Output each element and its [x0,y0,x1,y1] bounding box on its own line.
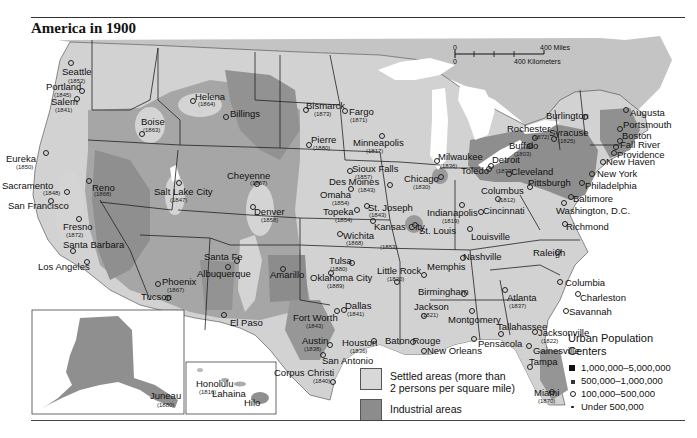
city-label-pensacola: Pensacola [478,339,522,349]
city-label-new-york: New York [597,169,637,179]
dot-icon [568,403,576,411]
city-year-fresno: (1872) [66,232,83,238]
city-year-houston: (1836) [350,348,367,354]
city-label-jackson: Jackson [414,302,449,312]
scale-miles-zero: 0 [453,44,457,51]
city-year-minneapolis: (1817) [366,148,383,154]
city-label-tulsa: Tulsa [329,256,352,266]
city-label-columbus: Columbus [481,186,524,196]
city-year-wichita: (1868) [346,240,363,246]
urban-legend-heading-2: Centers [568,345,671,358]
city-label-salt-lake-city: Salt Lake City [154,187,213,197]
city-marker-icon [221,112,229,120]
city-marker-icon [530,327,538,335]
open-circle-icon [568,390,576,398]
urban-legend-heading-1: Urban Population [568,332,671,345]
scale-miles-label: 400 Miles [540,44,570,51]
city-label-phoenix: Phoenix [162,277,196,287]
city-year-juneau: (1880) [157,402,174,408]
small-square-icon [568,377,576,385]
city-label-omaha: Omaha [320,190,351,200]
city-label-pittsburgh: Pittsburgh [528,178,571,188]
city-marker-icon [174,178,182,186]
legend-settled-line2: 2 persons per square mile) [390,382,515,394]
legend-settled: Settled areas (more than 2 persons per s… [360,368,515,394]
city-label-boise: Boise [141,117,165,127]
city-label-pierre: Pierre [311,135,336,145]
city-marker-icon [577,178,585,186]
city-label-hilo: Hilo [244,398,260,408]
city-label-toledo: Toledo [461,166,489,176]
city-marker-icon [621,105,629,113]
city-marker-icon [561,306,569,314]
legend-settled-line1: Settled areas (more than [390,370,515,382]
city-year-pierre: (1880) [313,145,330,151]
city-label-eureka: Eureka [6,154,36,164]
city-label-san-antonio: San Antonio [322,356,373,366]
area-legend: Settled areas (more than 2 persons per s… [360,368,515,426]
city-year-reno: (1868) [94,191,111,197]
urban-legend-label: 1,000,000–5,000,000 [581,361,671,374]
city-marker-icon [615,124,623,132]
scale-km-zero: 0 [453,58,457,65]
city-year-atlanta: (1837) [509,303,526,309]
city-label-austin: Austin [302,336,328,346]
city-label-houston: Houston [342,338,377,348]
city-year-jacksonville: (1822) [541,338,558,344]
city-marker-icon [587,169,595,177]
city-label-burlington: Burlington [546,111,589,121]
city-year-jackson: (1821) [421,312,438,318]
city-label-louisville: Louisville [471,232,510,242]
city-marker-icon [219,310,227,318]
city-marker-icon [335,229,343,237]
city-label-savannah: Savannah [569,307,612,317]
urban-legend-label: Under 500,000 [581,400,644,413]
city-year-fargo: (1871) [350,117,367,123]
urban-legend-item: 1,000,000–5,000,000 [568,361,671,374]
city-label-sioux-falls: Sioux Falls [352,164,398,174]
city-label-st-louis: St. Louis [419,226,456,236]
city-label-fresno: Fresno [63,222,93,232]
city-year-columbus: (1812) [498,197,515,203]
city-year-milwaukee: (1836) [440,163,457,169]
city-year-cheyenne: (1867) [250,180,267,186]
city-label-chicago: Chicago [404,174,439,184]
city-marker-icon [467,306,475,314]
city-label-des-moines: Des Moines [329,177,379,187]
city-year-syracuse: (1825) [558,138,575,144]
city-label-syracuse: Syracuse [549,128,589,138]
city-label-indianapolis: Indianapolis [427,208,478,218]
city-label-santa-barbara: Santa Barbara [63,240,124,250]
city-year-boise: (1863) [143,127,160,133]
city-marker-icon [62,187,70,195]
city-label-los-angeles: Los Angeles [38,262,90,272]
city-marker-icon [153,279,161,287]
city-marker-icon [41,148,49,156]
city-year-helena: (1864) [198,101,215,107]
city-year-little-rock: (1820) [387,276,404,282]
urban-population-legend: Urban Population Centers 1,000,000–5,000… [568,332,671,413]
city-year-denver: (1858) [261,217,278,223]
city-label-santa-fe: Santa Fe [204,252,243,262]
city-marker-icon [524,341,532,349]
city-label-nashville: Nashville [463,252,502,262]
city-marker-icon [66,58,74,66]
city-label-tucson: Tucson [141,292,172,302]
city-label-lahaina: Lahaina [212,389,246,399]
industrial-swatch [360,399,382,421]
city-label-albuquerque: Albuquerque [197,269,251,279]
city-label-minneapolis: Minneapolis [353,138,404,148]
city-year-bismarck: (1873) [314,111,331,117]
legend-industrial-label: Industrial areas [390,399,462,415]
city-label-tampa: Tampa [529,357,558,367]
city-label-portsmouth: Portsmouth [623,120,672,130]
city-year-st-joseph: (1843) [369,212,386,218]
city-label-salem: Salem [51,97,78,107]
city-label-baltimore: Baltimore [573,194,613,204]
city-label-fargo: Fargo [349,107,374,117]
city-label-boston: Boston [622,131,652,141]
city-label-birmingham: Birmingham [418,287,469,297]
city-year-kansas-city: (1853) [380,244,397,250]
city-year-chicago: (1830) [413,184,430,190]
city-year-salt-lake-city: (1847) [170,197,187,203]
